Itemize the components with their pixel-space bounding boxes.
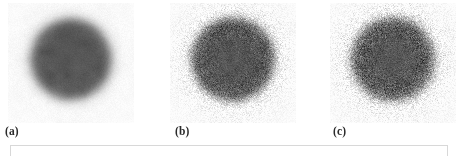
- figure-root: (a) (b) (c): [0, 0, 459, 156]
- panel-b-image: [170, 3, 296, 123]
- panel-a-image: [8, 3, 134, 123]
- panel-c-image: [330, 3, 456, 123]
- panel-a: [8, 3, 134, 123]
- panel-row: [0, 0, 459, 124]
- subcaption-b: (b): [175, 124, 189, 138]
- panel-b: [170, 3, 296, 123]
- subcaption-c: (c): [333, 124, 346, 138]
- caption-box: [10, 145, 448, 156]
- panel-c: [330, 3, 456, 123]
- subcaption-a: (a): [5, 124, 19, 138]
